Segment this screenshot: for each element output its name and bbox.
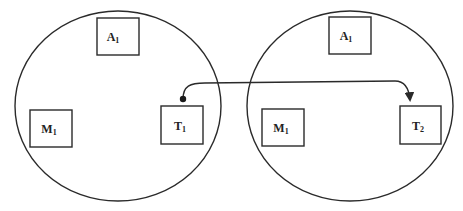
component-label: T: [412, 119, 420, 133]
node-2: A1 M1 T2: [247, 11, 453, 201]
component-m1-right: M1: [262, 109, 304, 146]
node-1: A1 M1 T1: [15, 11, 221, 201]
component-a1-right: A1: [329, 17, 371, 54]
component-label: A: [340, 29, 349, 43]
component-subscript: 1: [182, 125, 186, 134]
component-subscript: 1: [115, 36, 119, 45]
component-label: T: [174, 119, 182, 133]
component-label: A: [107, 30, 116, 44]
component-a1-left: A1: [97, 18, 139, 55]
migration-arrow-icon: [183, 81, 410, 100]
component-subscript: 2: [420, 125, 424, 134]
origin-dot-icon: [180, 96, 186, 102]
component-m1-left: M1: [30, 110, 72, 147]
component-subscript: 1: [53, 128, 57, 137]
migration-edge-t1-to-t2: [180, 81, 410, 102]
component-t1: T1: [161, 106, 203, 144]
component-subscript: 1: [285, 127, 289, 136]
component-subscript: 1: [348, 35, 352, 44]
component-t2: T2: [400, 106, 441, 144]
migration-diagram: A1 M1 T1 A1 M1 T2: [0, 0, 463, 211]
component-label: M: [41, 122, 52, 136]
component-label: M: [273, 121, 284, 135]
